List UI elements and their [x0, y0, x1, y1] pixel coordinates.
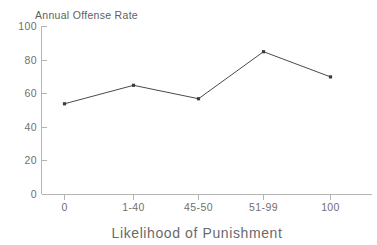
data-point-marker [63, 102, 66, 105]
x-axis-ticks [65, 195, 331, 200]
y-tick-label-20: 20 [25, 154, 37, 166]
data-series-markers [63, 50, 332, 105]
data-point-marker [197, 97, 200, 100]
y-tick-label-80: 80 [25, 54, 37, 66]
y-axis-ticks [42, 27, 47, 195]
x-tick-label-0: 0 [61, 201, 67, 213]
y-tick-label-0: 0 [31, 188, 37, 200]
x-axis-title: Likelihood of Punishment [112, 225, 283, 241]
chart-container: 100 80 60 40 20 0 0 1-40 45-50 51-99 100… [0, 0, 377, 245]
data-point-marker [262, 50, 265, 53]
y-axis-title: Annual Offense Rate [35, 9, 138, 21]
data-series-line [65, 52, 331, 104]
x-axis-tick-labels: 0 1-40 45-50 51-99 100 [61, 201, 339, 213]
x-tick-label-100: 100 [321, 201, 340, 213]
x-tick-label-1-40: 1-40 [122, 201, 145, 213]
x-tick-label-45-50: 45-50 [184, 201, 213, 213]
line-chart-plot: 100 80 60 40 20 0 0 1-40 45-50 51-99 100… [0, 0, 377, 245]
x-tick-label-51-99: 51-99 [249, 201, 278, 213]
data-point-marker [329, 75, 332, 78]
y-axis-tick-labels: 100 80 60 40 20 0 [18, 20, 37, 200]
data-point-marker [132, 84, 135, 87]
y-tick-label-40: 40 [25, 121, 37, 133]
y-tick-label-100: 100 [18, 20, 37, 32]
y-tick-label-60: 60 [25, 87, 37, 99]
